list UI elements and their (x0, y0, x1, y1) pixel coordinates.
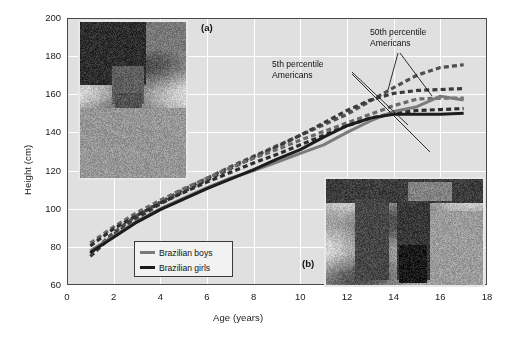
panel-label-a: (a) (201, 22, 213, 33)
y-tick-180: 180 (23, 50, 61, 61)
x-tick-16: 16 (425, 291, 455, 302)
y-tick-160: 160 (23, 88, 61, 99)
x-tick-0: 0 (52, 291, 82, 302)
y-tick-60: 60 (23, 279, 61, 290)
y-tick-120: 120 (23, 165, 61, 176)
legend-item-girls: Brazilian girls (140, 260, 210, 275)
y-tick-100: 100 (23, 203, 61, 214)
x-tick-4: 4 (145, 291, 175, 302)
x-tick-18: 18 (472, 291, 502, 302)
annotation-5th-line2: Americans (272, 70, 313, 80)
legend-label-girls: Brazilian girls (159, 263, 210, 273)
chart-legend: Brazilian boys Brazilian girls (134, 241, 233, 277)
legend-label-boys: Brazilian boys (159, 248, 213, 258)
x-tick-6: 6 (192, 291, 222, 302)
y-tick-200: 200 (23, 12, 61, 23)
annotation-5th-percentile: 5th percentile Americans (272, 59, 324, 81)
legend-item-boys: Brazilian boys (140, 245, 213, 260)
legend-swatch-girls (140, 266, 155, 269)
x-tick-14: 14 (379, 291, 409, 302)
legend-swatch-boys (140, 251, 155, 254)
y-tick-80: 80 (23, 241, 61, 252)
y-tick-140: 140 (23, 126, 61, 137)
malnourished-child-photo (78, 20, 188, 180)
x-tick-8: 8 (239, 291, 269, 302)
girls-carrying-basin-photo (324, 177, 485, 287)
x-tick-2: 2 (99, 291, 129, 302)
annotation-50th-line2: Americans (370, 38, 411, 48)
annotation-50th-percentile: 50th percentile Americans (370, 27, 426, 49)
x-axis-label: Age (years) (213, 312, 263, 323)
annotation-5th-line1: 5th percentile (272, 59, 324, 69)
x-tick-10: 10 (285, 291, 315, 302)
panel-label-b: (b) (302, 258, 314, 269)
x-tick-12: 12 (332, 291, 362, 302)
annotation-50th-line1: 50th percentile (370, 27, 426, 37)
